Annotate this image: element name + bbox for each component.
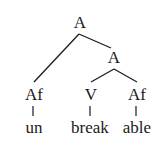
leaf-category-2: V <box>85 85 98 104</box>
branch-root-right <box>79 34 111 48</box>
root-node-label: A <box>74 13 87 32</box>
leaf-word-1: un <box>26 118 44 137</box>
branch-root-left <box>34 34 79 82</box>
leaf-category-3: Af <box>128 85 146 104</box>
leaf-word-3: able <box>123 118 151 137</box>
leaf-word-2: break <box>71 118 109 137</box>
branch-right-left <box>91 69 114 82</box>
leaf-category-1: Af <box>25 85 43 104</box>
right-node-label: A <box>108 48 121 67</box>
branch-right-right <box>114 69 137 82</box>
morphology-tree: A A Af V Af un break able <box>0 0 160 149</box>
